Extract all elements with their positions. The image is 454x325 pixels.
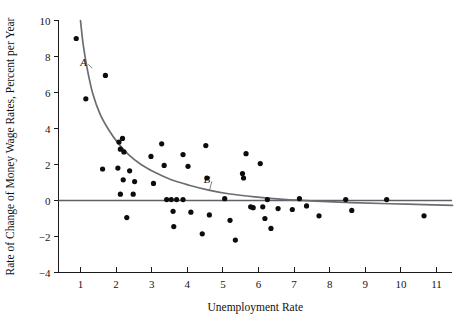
data-point	[121, 177, 126, 182]
data-point	[227, 218, 232, 223]
data-point	[297, 196, 302, 201]
data-point	[421, 213, 426, 218]
data-point	[188, 210, 193, 215]
data-point	[103, 73, 108, 78]
data-point	[131, 192, 136, 197]
x-tick-label: 4	[185, 278, 191, 290]
x-tick-label: 8	[327, 278, 333, 290]
x-tick-label: 3	[149, 278, 155, 290]
annotation-layer: AB	[79, 57, 212, 190]
scatter-plot-canvas: −4−202468101234567891011Unemployment Rat…	[0, 0, 454, 325]
data-point	[258, 161, 263, 166]
data-point	[132, 179, 137, 184]
data-point	[162, 163, 167, 168]
x-tick-label: 10	[395, 278, 407, 290]
data-point	[118, 192, 123, 197]
data-point	[233, 238, 238, 243]
data-point	[120, 136, 125, 141]
annotation-label-b: B	[204, 174, 211, 185]
data-points-layer	[74, 36, 427, 243]
x-tick-label: 2	[113, 278, 119, 290]
data-point	[384, 197, 389, 202]
x-tick-label: 7	[291, 278, 297, 290]
data-point	[164, 197, 169, 202]
data-point	[127, 168, 132, 173]
y-tick-label: 8	[45, 51, 51, 63]
y-tick-label: 4	[45, 123, 51, 135]
data-point	[159, 141, 164, 146]
data-point	[171, 224, 176, 229]
data-point	[151, 181, 156, 186]
y-axis-title: Rate of Change of Money Wage Rates, Perc…	[4, 17, 17, 275]
y-tick-label: 2	[45, 159, 51, 171]
data-point	[268, 226, 273, 231]
x-axis-title: Unemployment Rate	[208, 301, 304, 314]
data-point	[207, 212, 212, 217]
data-point	[74, 36, 79, 41]
data-point	[260, 204, 265, 209]
data-point	[180, 197, 185, 202]
phillips-fit-curve	[81, 21, 453, 206]
data-point	[185, 164, 190, 169]
data-point	[121, 149, 126, 154]
data-point	[170, 209, 175, 214]
data-point	[83, 96, 88, 101]
data-point	[222, 196, 227, 201]
curve-layer	[59, 21, 453, 206]
data-point	[174, 197, 179, 202]
data-point	[148, 154, 153, 159]
x-tick-label: 11	[431, 278, 442, 290]
phillips-curve-figure: −4−202468101234567891011Unemployment Rat…	[0, 0, 454, 325]
data-point	[275, 206, 280, 211]
x-tick-label: 6	[256, 278, 262, 290]
data-point	[265, 197, 270, 202]
axis-layer	[54, 21, 452, 273]
data-point	[115, 166, 120, 171]
data-point	[343, 197, 348, 202]
x-tick-label: 9	[363, 278, 369, 290]
data-point	[100, 166, 105, 171]
annotation-label-a: A	[79, 57, 87, 68]
data-point	[203, 143, 208, 148]
data-point	[349, 208, 354, 213]
data-point	[262, 216, 267, 221]
y-tick-label: 10	[40, 15, 52, 27]
y-tick-label: 0	[45, 195, 51, 207]
data-point	[243, 151, 248, 156]
x-tick-label: 5	[220, 278, 226, 290]
data-point	[200, 231, 205, 236]
data-point	[180, 152, 185, 157]
data-point	[240, 171, 245, 176]
data-point	[251, 205, 256, 210]
data-point	[241, 175, 246, 180]
data-point	[290, 207, 295, 212]
annotation-leader-line	[88, 64, 92, 68]
y-tick-label: 6	[45, 87, 51, 99]
data-point	[124, 215, 129, 220]
y-tick-label: −4	[39, 267, 51, 279]
x-tick-label: 1	[78, 278, 84, 290]
data-point	[304, 203, 309, 208]
data-point	[316, 213, 321, 218]
data-point	[169, 197, 174, 202]
y-tick-label: −2	[39, 231, 51, 243]
